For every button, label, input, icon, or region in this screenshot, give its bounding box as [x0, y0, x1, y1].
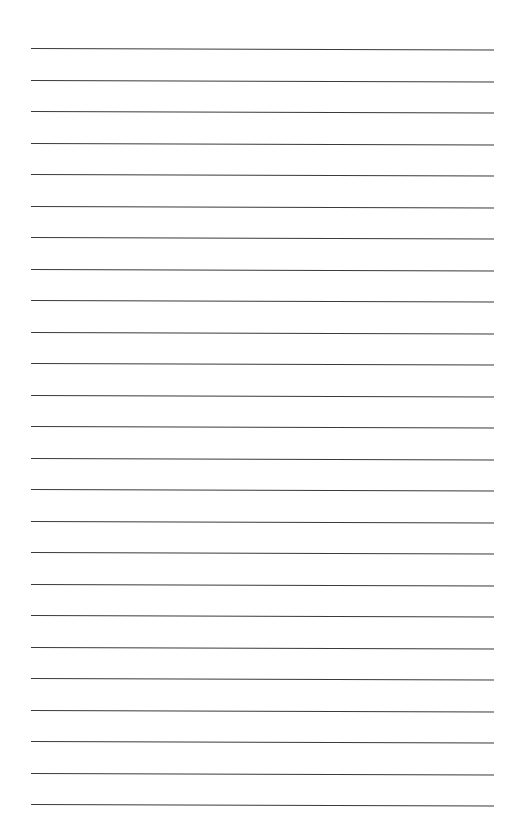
ruled-line: [31, 647, 494, 650]
ruled-line: [31, 395, 494, 398]
ruled-line: [31, 741, 494, 744]
ruled-line: [31, 111, 494, 114]
ruled-line: [31, 80, 494, 83]
ruled-line: [31, 206, 494, 209]
ruled-line: [31, 773, 494, 776]
ruled-line: [31, 48, 494, 51]
ruled-line: [31, 804, 494, 807]
ruled-line: [31, 269, 494, 272]
ruled-line: [31, 237, 494, 240]
ruled-line: [31, 426, 494, 429]
ruled-line: [31, 710, 494, 713]
ruled-line: [31, 143, 494, 146]
ruled-line: [31, 489, 494, 492]
ruled-line: [31, 552, 494, 555]
ruled-line: [31, 300, 494, 303]
ruled-line: [31, 678, 494, 681]
ruled-line: [31, 584, 494, 587]
ruled-line: [31, 615, 494, 618]
lined-paper-page: [0, 0, 513, 838]
ruled-line: [31, 332, 494, 335]
ruled-line: [31, 174, 494, 177]
ruled-line: [31, 458, 494, 461]
ruled-line: [31, 363, 494, 366]
ruled-line: [31, 521, 494, 524]
